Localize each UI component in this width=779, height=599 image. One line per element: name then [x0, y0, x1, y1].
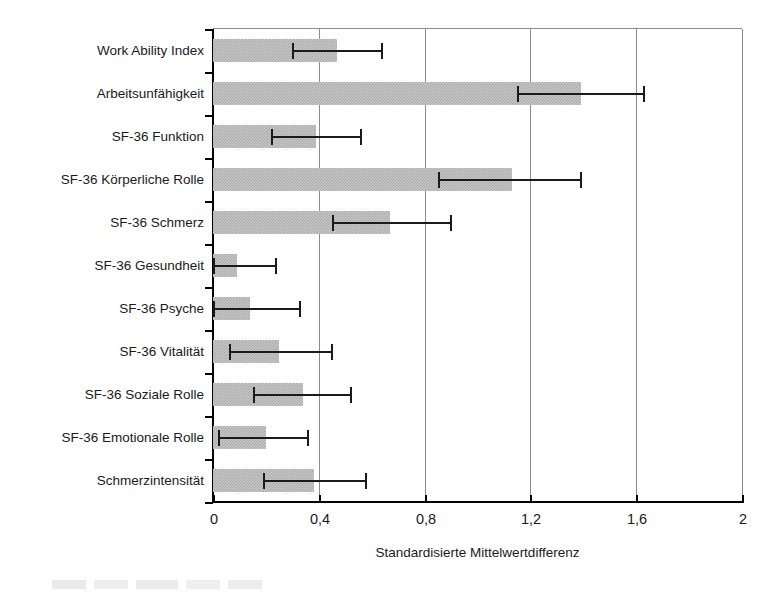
x-axis-tick-label: 0: [184, 510, 244, 528]
x-axis-tick: [530, 495, 532, 503]
y-axis-tick: [205, 330, 213, 332]
y-axis-tick: [205, 244, 213, 246]
chart-figure: Work Ability IndexArbeitsunfähigkeitSF-3…: [0, 0, 779, 599]
y-axis-label: Arbeitsunfähigkeit: [4, 86, 204, 102]
x-axis-tick: [425, 495, 427, 503]
error-bar-cap-low: [271, 129, 273, 145]
bar-row: [213, 158, 742, 201]
x-axis-tick: [636, 495, 638, 503]
error-bar-cap-high: [331, 344, 333, 360]
bar-row: [213, 330, 742, 373]
error-bar-cap-low: [332, 215, 334, 231]
error-bar-line: [218, 437, 308, 439]
error-bar-line: [517, 93, 644, 95]
y-axis-label: SF-36 Soziale Rolle: [4, 387, 204, 403]
error-bar-line: [213, 265, 276, 267]
y-axis-label: SF-36 Vitalität: [4, 344, 204, 360]
x-axis-tick-label: 0,4: [290, 510, 350, 528]
error-bar-line: [438, 179, 581, 181]
error-bar-line: [213, 308, 300, 310]
y-axis-label: SF-36 Funktion: [4, 129, 204, 145]
error-bar-cap-high: [307, 430, 309, 446]
error-bar-cap-low: [292, 43, 294, 59]
error-bar-cap-low: [218, 430, 220, 446]
y-axis-tick: [205, 373, 213, 375]
bar-row: [213, 244, 742, 287]
y-axis-label: Work Ability Index: [4, 43, 204, 59]
x-axis-tick: [319, 495, 321, 503]
error-bar-cap-high: [350, 387, 352, 403]
y-axis-tick: [205, 459, 213, 461]
bar-row: [213, 115, 742, 158]
error-bar-cap-high: [365, 473, 367, 489]
error-bar-cap-low: [517, 86, 519, 102]
error-bar-cap-high: [643, 86, 645, 102]
x-axis-tick-label: 1,2: [501, 510, 561, 528]
error-bar-cap-low: [213, 258, 215, 274]
error-bar-line: [332, 222, 451, 224]
error-bar-cap-low: [253, 387, 255, 403]
y-axis-label: Schmerzintensität: [4, 473, 204, 489]
error-bar-line: [271, 136, 361, 138]
y-axis-label: SF-36 Gesundheit: [4, 258, 204, 274]
error-bar-cap-high: [360, 129, 362, 145]
error-bar-cap-low: [213, 301, 215, 317]
error-bar-cap-high: [275, 258, 277, 274]
bar-row: [213, 29, 742, 72]
y-axis-tick: [205, 287, 213, 289]
error-bar-cap-low: [229, 344, 231, 360]
y-axis-tick: [205, 158, 213, 160]
x-axis-tick-label: 0,8: [396, 510, 456, 528]
bar-row: [213, 72, 742, 115]
y-axis-labels: Work Ability IndexArbeitsunfähigkeitSF-3…: [0, 29, 204, 502]
y-axis-label: SF-36 Psyche: [4, 301, 204, 317]
gridline-x-2: [742, 29, 743, 502]
y-axis-tick: [205, 115, 213, 117]
x-axis-tick-label: 1,6: [607, 510, 667, 528]
plot-area: [213, 29, 742, 502]
bar-row: [213, 287, 742, 330]
error-bar-line: [253, 394, 351, 396]
error-bar-cap-low: [438, 172, 440, 188]
bar-row: [213, 373, 742, 416]
error-bar-cap-high: [299, 301, 301, 317]
y-axis-label: SF-36 Schmerz: [4, 215, 204, 231]
error-bar-cap-high: [580, 172, 582, 188]
page-caption-fragment: [52, 580, 262, 589]
x-axis-tick-label: 2: [713, 510, 773, 528]
error-bar-line: [292, 50, 382, 52]
y-axis-label: SF-36 Körperliche Rolle: [4, 172, 204, 188]
y-axis-label: SF-36 Emotionale Rolle: [4, 430, 204, 446]
x-axis-title: Standardisierte Mittelwertdifferenz: [213, 545, 742, 560]
error-bar-line: [229, 351, 332, 353]
y-axis-tick: [205, 29, 213, 31]
error-bar-line: [263, 480, 366, 482]
error-bar-cap-high: [381, 43, 383, 59]
y-axis-tick: [205, 201, 213, 203]
error-bar-cap-high: [450, 215, 452, 231]
bar-row: [213, 416, 742, 459]
y-axis-tick: [205, 416, 213, 418]
y-axis-tick: [205, 72, 213, 74]
bar-row: [213, 459, 742, 502]
x-axis-tick: [742, 495, 744, 503]
y-axis-tick: [205, 502, 213, 504]
bar-row: [213, 201, 742, 244]
x-axis-tick: [213, 495, 215, 503]
error-bar-cap-low: [263, 473, 265, 489]
